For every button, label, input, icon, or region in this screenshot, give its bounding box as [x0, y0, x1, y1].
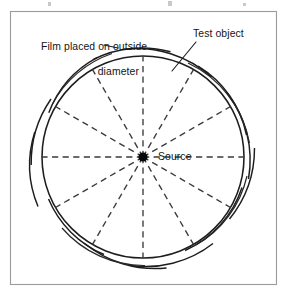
source-dot [138, 152, 147, 161]
film-label-line-2: diameter [29, 66, 153, 79]
film-label: Film placed on outside diameter [29, 28, 153, 104]
source-label: Source [158, 151, 192, 164]
film-label-line-1: Film placed on outside [41, 41, 147, 52]
test-object-label: Test object [193, 28, 244, 41]
figure-container: Film placed on outside diameter Test obj… [0, 0, 292, 300]
